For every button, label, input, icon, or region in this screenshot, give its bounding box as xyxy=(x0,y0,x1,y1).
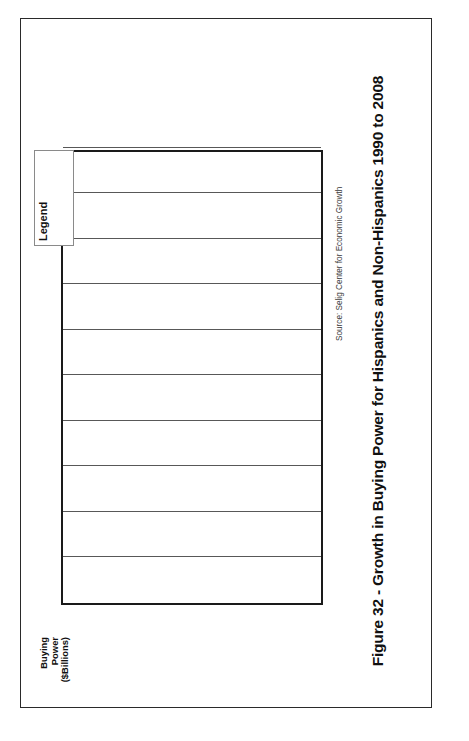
figure-page: Buying Power ($Billions) Legend Source: … xyxy=(0,0,469,741)
source-note: Source: Selig Center for Economic Growth xyxy=(335,41,344,341)
chart-stage: Buying Power ($Billions) Legend Source: … xyxy=(39,41,431,701)
axis-title-line-3: ($Billions) xyxy=(60,637,71,701)
figure-caption: Figure 32 - Growth in Buying Power for H… xyxy=(369,41,387,701)
legend-box: Legend xyxy=(34,150,74,246)
axis-title-line-1: Buying xyxy=(39,637,50,701)
plot-area xyxy=(61,150,323,605)
axis-title-line-2: Power xyxy=(49,637,60,701)
legend-title: Legend xyxy=(37,199,50,241)
bar-series-group xyxy=(63,152,321,603)
value-axis-title: Buying Power ($Billions) xyxy=(39,637,71,701)
gridline xyxy=(63,147,321,148)
